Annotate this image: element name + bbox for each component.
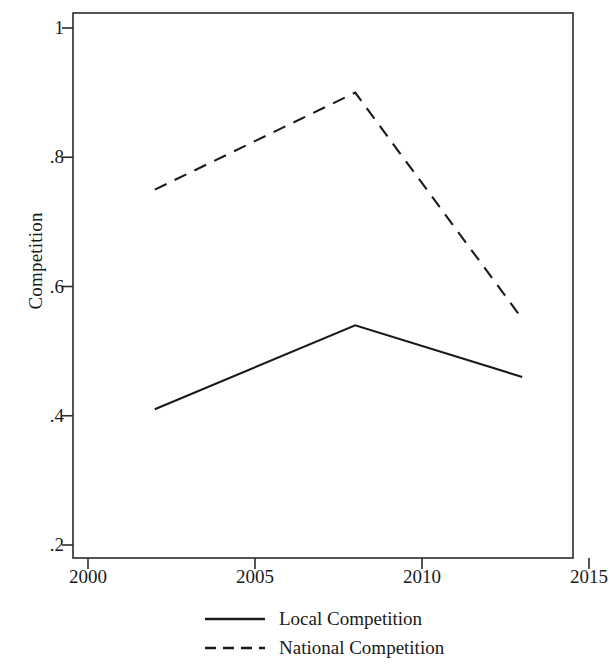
x-tick-label: 2005 xyxy=(215,567,295,586)
y-tick-label: 1 xyxy=(24,18,64,37)
plot-area xyxy=(0,0,603,600)
dashed-line-key-icon xyxy=(205,641,265,655)
x-axis-ticks xyxy=(88,558,589,569)
data-series-group xyxy=(155,93,522,410)
x-tick-label: 2010 xyxy=(382,567,462,586)
y-axis-title: Competition xyxy=(25,181,47,341)
legend-label: National Competition xyxy=(279,638,444,657)
y-tick-label: .8 xyxy=(24,147,64,166)
x-tick-label: 2000 xyxy=(48,567,128,586)
data-series-line xyxy=(155,325,522,409)
x-tick-label: 2015 xyxy=(549,567,612,586)
legend-item[interactable]: Local Competition xyxy=(0,604,603,633)
chart-legend: Local CompetitionNational Competition xyxy=(0,604,603,662)
data-series-line xyxy=(155,93,522,319)
legend-item[interactable]: National Competition xyxy=(0,633,603,662)
y-tick-label: .2 xyxy=(24,535,64,554)
y-tick-label: .4 xyxy=(24,406,64,425)
solid-line-key-icon xyxy=(205,612,265,626)
y-tick-label: .6 xyxy=(24,277,64,296)
legend-label: Local Competition xyxy=(279,609,422,628)
